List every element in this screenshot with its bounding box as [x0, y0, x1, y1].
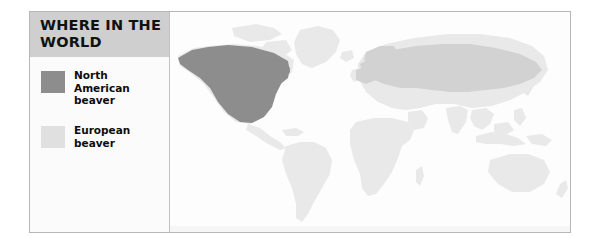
land-caribbean	[282, 128, 304, 136]
legend-swatch-dark-icon	[41, 71, 65, 93]
land-india	[446, 106, 468, 134]
land-central-america	[246, 124, 286, 150]
land-southeast-asia	[470, 108, 494, 130]
figure-panel: WHERE IN THE WORLD North American beaver…	[29, 11, 571, 233]
range-north-american-beaver-layer	[178, 45, 290, 123]
world-map	[170, 12, 570, 232]
land-antarctic-edge	[170, 226, 570, 232]
where-in-the-world-figure: WHERE IN THE WORLD North American beaver…	[0, 0, 596, 247]
legend-entry-list: North American beaver European beaver	[30, 57, 169, 232]
land-iceland	[340, 50, 354, 62]
land-africa	[350, 118, 414, 196]
land-new-zealand	[556, 180, 568, 198]
land-philippines	[514, 108, 526, 126]
page-title: WHERE IN THE WORLD	[40, 17, 165, 50]
land-madagascar	[416, 166, 424, 186]
world-map-svg	[170, 12, 570, 232]
legend-panel: WHERE IN THE WORLD North American beaver…	[30, 12, 170, 232]
land-greenland	[294, 26, 340, 68]
legend-label-north-american-beaver: North American beaver	[74, 69, 166, 107]
land-new-guinea	[526, 134, 552, 146]
land-australia	[488, 154, 550, 192]
legend-title-band: WHERE IN THE WORLD	[30, 12, 169, 57]
legend-swatch-light-icon	[41, 126, 65, 148]
land-south-america	[282, 142, 332, 222]
legend-label-european-beaver: European beaver	[74, 124, 166, 149]
land-arctic-islands	[232, 24, 282, 42]
